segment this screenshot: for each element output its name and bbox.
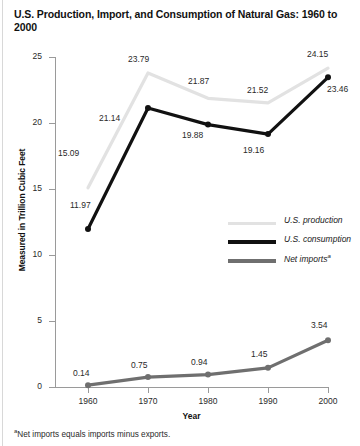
- legend-swatch-us-production: [228, 222, 276, 225]
- legend-label-us-production: U.S. production: [284, 215, 343, 225]
- legend-swatch-us-consumption: [228, 240, 276, 244]
- data-point: [325, 337, 331, 343]
- label-consumption-1970: 21.14: [99, 113, 120, 123]
- series-line-net-imports: [88, 340, 328, 385]
- plot-area: 25 20 15 10 5 0 1960 1970 1980 1990 2000…: [0, 0, 360, 446]
- label-imports-1970: 0.75: [131, 360, 148, 370]
- figure-footnote: aNet imports equals imports minus export…: [14, 428, 344, 439]
- legend-swatch-net-imports: [228, 259, 276, 263]
- data-point: [325, 74, 331, 80]
- label-production-1970: 23.79: [128, 54, 149, 64]
- data-point: [85, 382, 91, 388]
- label-imports-1980: 0.94: [191, 357, 208, 367]
- label-consumption-2000: 23.46: [327, 84, 348, 94]
- label-imports-1990: 1.45: [251, 349, 268, 359]
- data-point: [205, 372, 211, 378]
- label-consumption-1960: 11.97: [70, 200, 91, 210]
- data-point: [85, 226, 91, 232]
- series-line-us-production: [88, 68, 328, 188]
- series-line-us-consumption: [88, 77, 328, 229]
- data-point: [265, 365, 271, 371]
- legend-label-net-imports-text: Net imports: [284, 254, 327, 264]
- data-point: [145, 105, 151, 111]
- data-point: [145, 374, 151, 380]
- data-point: [265, 131, 271, 137]
- label-production-1990: 21.52: [247, 85, 268, 95]
- label-production-1960: 15.09: [58, 148, 79, 158]
- label-imports-2000: 3.54: [311, 320, 328, 330]
- label-consumption-1990: 19.16: [243, 145, 264, 155]
- data-point: [205, 122, 211, 128]
- legend-label-net-imports: Net importsa: [284, 253, 331, 264]
- legend-label-us-consumption: U.S. consumption: [284, 234, 351, 244]
- footnote-text: Net imports equals imports minus exports…: [17, 430, 170, 439]
- label-production-2000: 24.15: [307, 49, 328, 59]
- label-imports-1960: 0.14: [73, 368, 90, 378]
- label-consumption-1980: 19.88: [182, 130, 203, 140]
- label-production-1980: 21.87: [188, 76, 209, 86]
- legend-footnote-marker: a: [327, 253, 330, 259]
- chart-figure: U.S. Production, Import, and Consumption…: [0, 0, 360, 446]
